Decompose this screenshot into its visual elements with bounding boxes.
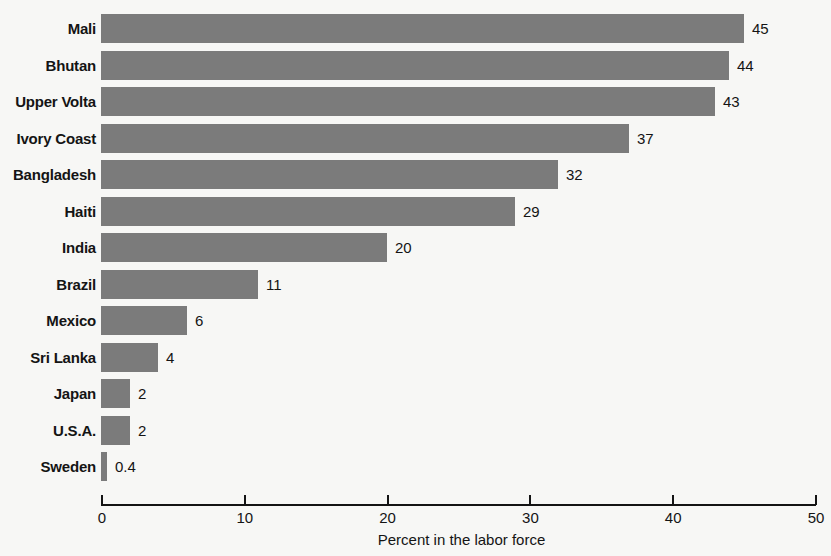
x-axis-tick-label: 10	[225, 508, 265, 528]
x-axis-title-text: Percent in the labor force	[378, 531, 546, 548]
x-axis-title: Percent in the labor force	[0, 531, 831, 548]
bar	[101, 197, 515, 226]
bar	[101, 270, 258, 299]
bar-value-label: 45	[752, 14, 769, 43]
x-axis-tick	[101, 495, 103, 505]
x-axis-tick-label: 50	[796, 508, 831, 528]
x-axis-tick	[529, 495, 531, 505]
category-label: Upper Volta	[0, 87, 96, 116]
bar-value-label: 20	[395, 233, 412, 262]
category-label: Sri Lanka	[0, 343, 96, 372]
bar-row: Bhutan44	[0, 51, 831, 80]
bar	[101, 87, 715, 116]
bar-value-label: 37	[637, 124, 654, 153]
bar-value-label: 11	[266, 270, 282, 299]
bar	[101, 379, 130, 408]
bar-row: Sweden0.4	[0, 452, 831, 481]
bar-value-label: 43	[723, 87, 740, 116]
bar-row: Haiti29	[0, 197, 831, 226]
bar	[101, 306, 187, 335]
bar-row: Sri Lanka4	[0, 343, 831, 372]
bar-row: Brazil11	[0, 270, 831, 299]
bar-value-label: 0.4	[115, 452, 136, 481]
bar	[101, 160, 558, 189]
bar-row: Bangladesh32	[0, 160, 831, 189]
category-label: Sweden	[0, 452, 96, 481]
bar-value-label: 2	[138, 416, 146, 445]
bar-row: Ivory Coast37	[0, 124, 831, 153]
bar-value-label: 6	[195, 306, 203, 335]
x-axis-tick	[387, 495, 389, 505]
bar-row: Mali45	[0, 14, 831, 43]
x-axis-tick	[244, 495, 246, 505]
category-label: Japan	[0, 379, 96, 408]
bar-row: Mexico6	[0, 306, 831, 335]
bar-value-label: 4	[166, 343, 174, 372]
bar-row: Upper Volta43	[0, 87, 831, 116]
category-label: Brazil	[0, 270, 96, 299]
bar-value-label: 32	[566, 160, 583, 189]
category-label: U.S.A.	[0, 416, 96, 445]
bar	[101, 452, 107, 481]
x-axis-tick-label: 0	[82, 508, 122, 528]
bar	[101, 416, 130, 445]
bar	[101, 14, 744, 43]
bar-value-label: 29	[523, 197, 540, 226]
bar-row: Japan2	[0, 379, 831, 408]
bar	[101, 343, 158, 372]
bar	[101, 124, 629, 153]
x-axis-tick	[815, 495, 817, 505]
x-axis-tick-label: 20	[368, 508, 408, 528]
bar-value-label: 44	[737, 51, 754, 80]
bar-value-label: 2	[138, 379, 146, 408]
x-axis-tick-label: 40	[653, 508, 693, 528]
bar-chart: Mali45Bhutan44Upper Volta43Ivory Coast37…	[0, 0, 831, 556]
category-label: India	[0, 233, 96, 262]
bar-row: India20	[0, 233, 831, 262]
bar-row: U.S.A.2	[0, 416, 831, 445]
bar	[101, 51, 729, 80]
category-label: Ivory Coast	[0, 124, 96, 153]
category-label: Mali	[0, 14, 96, 43]
x-axis-tick	[672, 495, 674, 505]
category-label: Mexico	[0, 306, 96, 335]
bar	[101, 233, 387, 262]
category-label: Haiti	[0, 197, 96, 226]
x-axis-tick-label: 30	[510, 508, 550, 528]
category-label: Bangladesh	[0, 160, 96, 189]
x-axis-line	[101, 504, 816, 506]
category-label: Bhutan	[0, 51, 96, 80]
